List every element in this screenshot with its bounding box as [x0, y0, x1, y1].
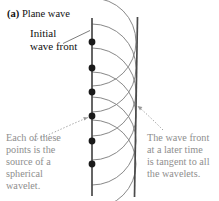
left-caption: Each of thesepoints is thesource of asph…	[6, 132, 80, 192]
spherical-wavelets-group	[92, 0, 136, 201]
right-caption-line1: The wave front	[147, 132, 209, 143]
panel-label: (a)	[7, 8, 19, 19]
right-caption: The wave frontat a later timeis tangent …	[147, 132, 219, 180]
source-point	[89, 65, 96, 72]
left-caption-line3: source of a	[6, 156, 51, 167]
right-caption-line4: the wavelets.	[147, 168, 200, 179]
initial-front-line2: wave front	[30, 40, 77, 52]
leader-line-right-caption	[138, 106, 164, 130]
source-point	[89, 161, 96, 168]
panel-title: Plane wave	[19, 8, 70, 19]
figure-title: (a) Plane wave	[7, 8, 70, 20]
left-caption-line1: Each of these	[6, 132, 61, 143]
left-caption-line5: wavelet.	[6, 180, 40, 191]
wavelet-arc	[92, 0, 136, 86]
wavelet-arc	[92, 120, 136, 201]
right-caption-line2: at a later time	[147, 144, 203, 155]
source-point	[89, 113, 96, 120]
source-point	[89, 89, 96, 96]
right-caption-line3: is tangent to all	[147, 156, 210, 167]
left-caption-line2: points is the	[6, 144, 55, 155]
figure-panel: (a) Plane wave Initialwave front Each of…	[0, 0, 219, 201]
leader-arrowhead-left	[83, 117, 88, 121]
left-caption-line4: spherical	[6, 168, 43, 179]
source-point	[89, 39, 96, 46]
source-point	[89, 138, 96, 145]
initial-wave-front-label: Initialwave front	[30, 27, 77, 53]
initial-front-line1: Initial	[30, 27, 56, 39]
